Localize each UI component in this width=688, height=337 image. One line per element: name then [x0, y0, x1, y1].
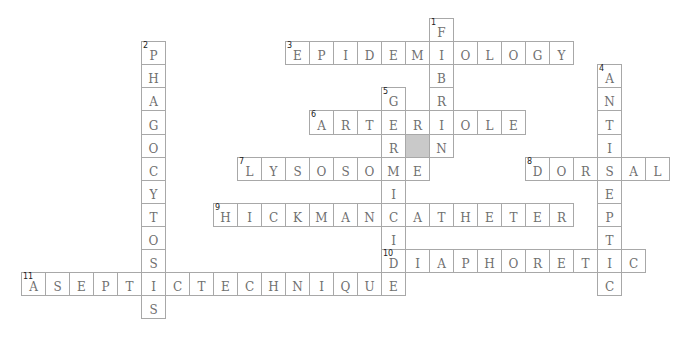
grid-cell[interactable]: O [141, 226, 166, 250]
grid-cell[interactable]: A [429, 249, 454, 273]
grid-cell[interactable]: E [69, 272, 94, 296]
grid-cell[interactable]: T [597, 110, 622, 135]
grid-cell[interactable]: Q [333, 272, 358, 296]
grid-cell[interactable]: T [189, 272, 214, 296]
grid-cell[interactable]: P [597, 203, 622, 227]
grid-cell[interactable]: N [597, 87, 622, 111]
grid-cell[interactable]: H9 [213, 203, 238, 227]
grid-cell[interactable]: H [141, 64, 166, 88]
grid-cell[interactable]: N [429, 134, 454, 158]
grid-cell[interactable]: I [597, 134, 622, 158]
grid-cell[interactable]: T [573, 249, 598, 273]
grid-cell[interactable]: E [381, 110, 406, 135]
grid-cell[interactable]: L [477, 110, 502, 135]
grid-cell[interactable]: E [213, 272, 238, 296]
grid-cell[interactable]: S [285, 157, 310, 181]
grid-cell[interactable]: D10 [381, 249, 406, 273]
grid-cell[interactable]: C [621, 249, 646, 273]
grid-cell[interactable]: L [477, 41, 502, 65]
grid-cell[interactable]: I [333, 41, 358, 65]
grid-cell[interactable]: E [381, 41, 406, 65]
grid-cell[interactable]: E [549, 249, 574, 273]
grid-cell[interactable]: T [117, 272, 142, 296]
grid-cell[interactable]: T [357, 110, 382, 135]
grid-cell[interactable]: P2 [141, 41, 166, 65]
grid-cell[interactable]: H [453, 203, 478, 227]
grid-cell[interactable]: T [597, 226, 622, 250]
grid-cell[interactable]: H [261, 272, 286, 296]
grid-cell[interactable]: I [237, 203, 262, 227]
grid-cell[interactable]: P [309, 41, 334, 65]
grid-cell[interactable]: M [405, 41, 430, 65]
grid-cell[interactable]: E [525, 203, 550, 227]
grid-cell[interactable]: I [381, 226, 406, 250]
grid-cell[interactable]: C [597, 272, 622, 296]
grid-cell[interactable]: E3 [285, 41, 310, 65]
grid-cell[interactable]: R [549, 203, 574, 227]
grid-cell[interactable]: R [573, 157, 598, 181]
grid-cell[interactable]: S [141, 295, 166, 319]
grid-cell[interactable]: R [405, 110, 430, 135]
grid-cell[interactable]: F1 [429, 18, 454, 42]
grid-cell[interactable]: E [501, 110, 526, 135]
grid-cell[interactable]: R [525, 249, 550, 273]
grid-cell[interactable]: C [261, 203, 286, 227]
grid-cell[interactable]: I [429, 110, 454, 135]
grid-cell[interactable]: E [477, 203, 502, 227]
grid-cell[interactable]: T [429, 203, 454, 227]
grid-cell[interactable]: I [141, 272, 166, 296]
grid-cell[interactable]: O [501, 41, 526, 65]
grid-cell[interactable]: E [597, 180, 622, 204]
grid-cell[interactable]: U [357, 272, 382, 296]
grid-cell[interactable]: P [93, 272, 118, 296]
grid-cell[interactable]: T [501, 203, 526, 227]
grid-cell[interactable]: O [549, 157, 574, 181]
grid-cell[interactable]: B [429, 64, 454, 88]
grid-cell[interactable]: S [333, 157, 358, 181]
grid-cell[interactable]: E [405, 157, 430, 181]
grid-cell[interactable]: Y [261, 157, 286, 181]
grid-cell[interactable]: A [621, 157, 646, 181]
grid-cell[interactable]: L7 [237, 157, 262, 181]
grid-cell[interactable]: C [381, 203, 406, 227]
grid-cell[interactable]: O [141, 134, 166, 158]
grid-cell[interactable]: A [405, 203, 430, 227]
grid-cell[interactable]: R [333, 110, 358, 135]
grid-cell[interactable]: M [309, 203, 334, 227]
grid-cell[interactable]: I [429, 41, 454, 65]
grid-cell[interactable]: O [309, 157, 334, 181]
grid-cell[interactable]: Y [549, 41, 574, 65]
grid-cell[interactable]: I [405, 249, 430, 273]
grid-cell[interactable]: C [237, 272, 262, 296]
grid-cell[interactable]: I [381, 180, 406, 204]
grid-cell[interactable]: N [285, 272, 310, 296]
grid-cell[interactable]: Y [141, 180, 166, 204]
grid-cell[interactable]: D [357, 41, 382, 65]
grid-cell[interactable]: C [165, 272, 190, 296]
grid-cell[interactable]: M [381, 157, 406, 181]
grid-cell[interactable]: O [357, 157, 382, 181]
grid-cell[interactable]: R [429, 87, 454, 111]
grid-cell[interactable]: O [453, 41, 478, 65]
grid-cell[interactable]: N [357, 203, 382, 227]
grid-cell[interactable]: D8 [525, 157, 550, 181]
grid-cell[interactable]: A [141, 87, 166, 111]
grid-cell[interactable]: I [309, 272, 334, 296]
grid-cell[interactable]: S [45, 272, 70, 296]
grid-cell[interactable]: C [141, 157, 166, 181]
grid-cell[interactable]: K [285, 203, 310, 227]
grid-cell[interactable]: A4 [597, 64, 622, 88]
grid-cell[interactable]: S [141, 249, 166, 273]
grid-cell[interactable]: S [597, 157, 622, 181]
grid-cell[interactable]: O [501, 249, 526, 273]
grid-cell[interactable]: G5 [381, 87, 406, 111]
grid-cell[interactable]: G [525, 41, 550, 65]
grid-cell[interactable]: T [141, 203, 166, 227]
grid-cell[interactable]: A11 [21, 272, 46, 296]
grid-cell[interactable]: A6 [309, 110, 334, 135]
grid-cell[interactable]: G [141, 110, 166, 135]
grid-cell[interactable]: E [381, 272, 406, 296]
grid-cell[interactable]: I [597, 249, 622, 273]
grid-cell[interactable]: R [381, 134, 406, 158]
grid-cell[interactable]: L [645, 157, 670, 181]
